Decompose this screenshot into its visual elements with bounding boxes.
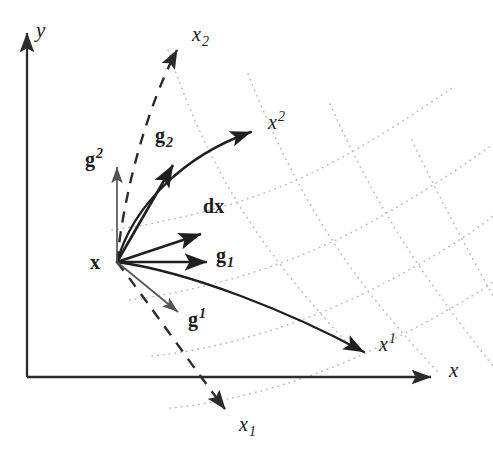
dashed-reference-axes <box>117 50 225 409</box>
y-axis-label: y <box>36 20 45 41</box>
g-sup-2-base: g <box>85 148 95 170</box>
x-sub-2-index: 2 <box>201 34 209 49</box>
x-sub-2-dashed-axis <box>117 50 177 262</box>
x-sup-2-label: x2 <box>268 110 285 132</box>
grid-line-u <box>170 282 493 408</box>
x-sup-2-index: 2 <box>277 109 285 124</box>
g-sup-1-index: 1 <box>198 306 206 321</box>
x-sup-1-base: x <box>379 333 388 355</box>
dx-base: x <box>214 195 224 217</box>
g-sup-2-label: g2 <box>85 147 103 169</box>
grid-line-v <box>412 140 493 296</box>
grid-line-u <box>152 216 493 356</box>
g-sup-1-vector <box>117 262 178 312</box>
x-sub-1-index: 1 <box>248 424 256 439</box>
x-sup-2-curve <box>117 132 251 262</box>
grid-line-v <box>330 104 493 366</box>
g-sup-1-label: g1 <box>188 307 206 329</box>
g-sub-1-index: 1 <box>226 255 234 270</box>
x-axis-label: x <box>449 360 458 381</box>
figure-canvas <box>0 0 493 458</box>
x-sub-1-base: x <box>239 413 248 435</box>
dx-prefix: d <box>203 195 214 217</box>
g-sup-2-index: 2 <box>95 146 103 161</box>
g-sub-1-base: g <box>216 244 226 266</box>
point-x-label: x <box>90 252 100 272</box>
x-sup-1-curve <box>117 262 364 352</box>
g-sub-2-base: g <box>155 124 165 146</box>
x-sup-1-index: 1 <box>388 331 396 346</box>
g-sup-1-base: g <box>188 308 198 330</box>
x-sub-2-base: x <box>192 23 201 45</box>
dx-label: dx <box>203 196 224 216</box>
g-sub-2-label: g2 <box>155 125 173 150</box>
curvilinear-grid <box>112 50 493 408</box>
x-sup-1-label: x1 <box>379 332 396 354</box>
x-sup-2-base: x <box>268 111 277 133</box>
g-sub-2-index: 2 <box>165 135 173 150</box>
cartesian-axes <box>27 33 431 377</box>
g-sub-1-label: g1 <box>216 245 234 270</box>
curvilinear-coordinates-figure: y x x2 x1 x2 x1 g1 g2 g1 g2 dx x <box>0 0 493 458</box>
x-sub-1-label: x1 <box>239 414 256 439</box>
x-sub-2-label: x2 <box>192 24 209 49</box>
